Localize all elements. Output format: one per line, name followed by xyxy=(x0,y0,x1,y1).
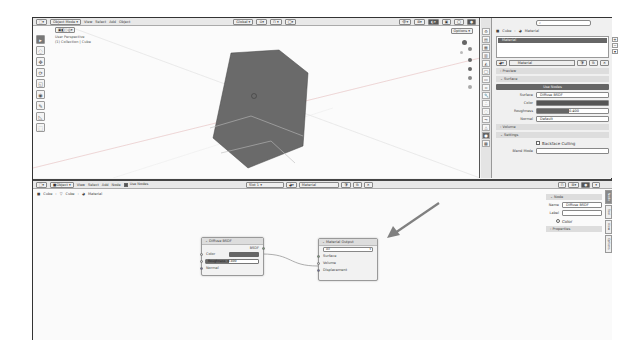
unlink-material-button[interactable]: ✕ xyxy=(600,60,609,66)
tab-tool[interactable]: Tool xyxy=(605,205,612,219)
object-tab-icon[interactable]: ▫ xyxy=(482,84,490,91)
mode-dropdown[interactable]: Object Mode ▾ xyxy=(50,19,81,25)
normal-field[interactable]: Default xyxy=(536,116,609,122)
settings-panel-header[interactable]: ⌄ Settings xyxy=(496,132,609,138)
visibility-button[interactable]: 👁▾ xyxy=(399,19,411,25)
menu-add[interactable]: Add xyxy=(109,20,116,24)
data-tab-icon[interactable]: △ xyxy=(482,124,490,131)
overlay-button[interactable]: ◐▾ xyxy=(428,19,439,25)
shading-wire-button[interactable]: ◯ xyxy=(454,19,464,25)
scale-tool-icon[interactable]: ◱ xyxy=(36,79,45,88)
node-color-checkbox[interactable] xyxy=(556,219,560,223)
constraints-tab-icon[interactable]: ⊸ xyxy=(482,116,490,123)
blend-mode-dropdown[interactable] xyxy=(536,148,609,154)
modifier-tab-icon[interactable]: 🔧 xyxy=(482,92,490,99)
node-title[interactable]: ⌄ Diffuse BSDF xyxy=(202,238,263,245)
collection-tab-icon[interactable]: ▭ xyxy=(482,76,490,83)
roughness-input-socket[interactable] xyxy=(200,260,203,263)
remove-slot-button[interactable]: − xyxy=(612,43,618,48)
xray-button[interactable]: ▣ xyxy=(442,19,451,25)
particles-tab-icon[interactable]: ∴ xyxy=(482,100,490,107)
color-input-socket[interactable] xyxy=(200,253,203,256)
texture-tab-icon[interactable]: ▩ xyxy=(482,140,490,147)
gizmo-button[interactable]: ⊞▾ xyxy=(414,19,425,25)
physics-tab-icon[interactable]: ◌ xyxy=(482,108,490,115)
displacement-input-socket[interactable] xyxy=(317,269,320,272)
preview-panel-header[interactable]: › Preview xyxy=(496,68,609,74)
normal-input-socket[interactable] xyxy=(200,267,203,270)
bsdf-output-socket[interactable] xyxy=(262,247,265,250)
material-slot-item[interactable]: Material xyxy=(498,38,607,43)
browse-material-button[interactable]: ◕▾ xyxy=(496,60,507,66)
rotate-tool-icon[interactable]: ⟳ xyxy=(36,68,45,77)
tab-node[interactable]: Node xyxy=(605,190,612,204)
measure-tool-icon[interactable]: ◺ xyxy=(36,112,45,121)
color-row: Color xyxy=(496,100,609,106)
pivot-button[interactable]: ⊙▾ xyxy=(256,19,267,25)
navigation-gizmo[interactable] xyxy=(458,38,478,118)
proportional-button[interactable]: ◯▾ xyxy=(285,19,297,25)
add-slot-button[interactable]: + xyxy=(612,37,618,42)
output-tab-icon[interactable]: ▦ xyxy=(482,44,490,51)
volume-input-row: Volume xyxy=(319,260,377,267)
color-swatch-node[interactable] xyxy=(229,252,259,257)
world-tab-icon[interactable]: ◯ xyxy=(482,68,490,75)
add-cube-tool-icon[interactable]: ⬚ xyxy=(36,123,45,132)
slot-specials-button[interactable]: ▾ xyxy=(612,49,618,54)
shading-solid-button[interactable]: ● xyxy=(467,19,476,25)
roughness-slider[interactable]: 0.400 xyxy=(536,108,609,114)
view-layer-tab-icon[interactable]: ▥ xyxy=(482,52,490,59)
slot-controls: + − ▾ xyxy=(612,37,618,54)
cursor-tool-icon[interactable]: ◌ xyxy=(36,46,45,55)
diffuse-bsdf-node[interactable]: ⌄ Diffuse BSDF BSDF Color Roughness 0.40… xyxy=(201,237,264,276)
properties-panel-header[interactable]: › Properties xyxy=(546,226,602,232)
backface-culling-row[interactable]: Backface Culling xyxy=(496,140,609,146)
material-output-node[interactable]: ⌄ Material Output All▾ Surface Volume Di… xyxy=(318,238,378,281)
volume-panel-header[interactable]: › Volume xyxy=(496,124,609,130)
menu-select[interactable]: Select xyxy=(95,20,106,24)
render-tab-icon[interactable]: ▤ xyxy=(482,36,490,43)
fake-user-button[interactable]: 🛡 xyxy=(577,60,587,66)
use-nodes-button[interactable]: Use Nodes xyxy=(496,84,609,90)
mesh-icon: ■ xyxy=(496,29,499,33)
transform-orientation-dropdown[interactable]: Global ▾ xyxy=(233,19,253,25)
color-swatch[interactable] xyxy=(536,100,609,106)
properties-search-input[interactable]: ⌕ xyxy=(536,20,591,26)
surface-input-socket[interactable] xyxy=(317,255,320,258)
material-slot-list[interactable]: Material + − ▾ xyxy=(496,36,609,58)
material-name-field[interactable]: Material xyxy=(509,60,575,66)
options-dropdown[interactable]: Options ▾ xyxy=(451,28,473,34)
transform-tool-icon[interactable]: ◉ xyxy=(36,90,45,99)
node-sidebar: ⌄ Node Name Diffuse BSDF Label Color › P… xyxy=(544,190,604,234)
backface-culling-checkbox[interactable] xyxy=(536,141,540,145)
select-mode-button[interactable]: ▣◧◌◎▾ xyxy=(55,27,75,33)
node-color-row[interactable]: Color xyxy=(546,218,602,224)
3d-viewport[interactable]: ⬚▾ Object Mode ▾ View Select Add Object … xyxy=(33,18,480,178)
surface-panel-header[interactable]: ⌄ Surface xyxy=(496,76,609,82)
new-material-button[interactable]: ⧉ xyxy=(589,60,598,66)
menu-object[interactable]: Object xyxy=(119,20,130,24)
surface-shader-field[interactable]: Diffuse BSDF xyxy=(536,92,609,98)
annotate-tool-icon[interactable]: ✎ xyxy=(36,101,45,110)
tool-tab-icon[interactable]: ⚙ xyxy=(482,28,490,35)
properties-content: ⌕ ■ Cube › ◕ Material Material + − ▾ ◕▾ … xyxy=(493,18,612,178)
editor-type-button[interactable]: ⬚▾ xyxy=(36,19,47,25)
shading-material-button[interactable]: ◒ xyxy=(479,19,480,25)
tab-view[interactable]: View xyxy=(605,220,612,234)
target-dropdown[interactable]: All▾ xyxy=(323,247,373,252)
viewport-header: ⬚▾ Object Mode ▾ View Select Add Object … xyxy=(33,18,479,26)
move-tool-icon[interactable]: ✥ xyxy=(36,57,45,66)
node-panel-header[interactable]: ⌄ Node xyxy=(546,194,602,200)
tab-options[interactable]: Options xyxy=(605,235,612,253)
select-box-tool-icon[interactable]: ▸ xyxy=(36,35,45,44)
node-name-field[interactable]: Diffuse BSDF xyxy=(562,202,602,208)
node-title[interactable]: ⌄ Material Output xyxy=(319,239,377,246)
volume-input-socket[interactable] xyxy=(317,262,320,265)
roughness-node-slider[interactable]: Roughness 0.400 xyxy=(205,259,259,264)
node-label-field[interactable] xyxy=(562,210,602,216)
shader-node-editor[interactable]: ⬚▾ ■ Object ▾ View Select Add Node Use N… xyxy=(33,179,612,340)
snap-button[interactable]: ⊓ ▾ xyxy=(270,19,282,25)
material-tab-icon[interactable]: ● xyxy=(482,132,490,139)
menu-view[interactable]: View xyxy=(84,20,92,24)
scene-tab-icon[interactable]: ◭ xyxy=(482,60,490,67)
